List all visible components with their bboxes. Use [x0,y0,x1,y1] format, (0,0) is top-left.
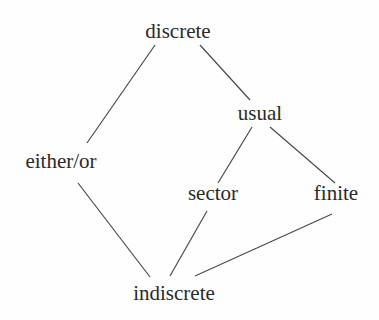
edge-usual-finite [270,127,335,183]
node-finite: finite [314,181,358,205]
hasse-diagram: discreteusualeither/orsectorfiniteindisc… [0,0,379,320]
node-either-or: either/or [25,149,96,173]
edge-discrete-usual [200,45,250,100]
node-discrete: discrete [145,19,210,43]
node-sector: sector [188,181,238,205]
nodes-group: discreteusualeither/orsectorfiniteindisc… [25,19,358,305]
node-indiscrete: indiscrete [133,281,215,305]
edge-discrete-either_or [87,45,155,143]
edges-group [78,45,335,277]
edge-sector-indiscrete [170,211,207,276]
edge-finite-indiscrete [195,214,332,276]
edge-either_or-indiscrete [78,183,150,277]
edge-usual-sector [218,127,252,183]
node-usual: usual [238,101,282,125]
diagram-canvas: discreteusualeither/orsectorfiniteindisc… [0,0,379,320]
